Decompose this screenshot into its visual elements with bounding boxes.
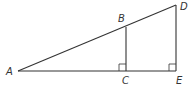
label-b: B — [118, 13, 125, 24]
right-angle-marker-e — [169, 64, 176, 71]
label-d: D — [180, 1, 188, 12]
triangle-diagram: A B C D E — [0, 0, 194, 98]
label-e: E — [176, 75, 183, 86]
right-angle-marker-c — [119, 64, 126, 71]
segment-ad — [18, 5, 176, 71]
label-c: C — [122, 75, 129, 86]
label-a: A — [5, 66, 13, 77]
